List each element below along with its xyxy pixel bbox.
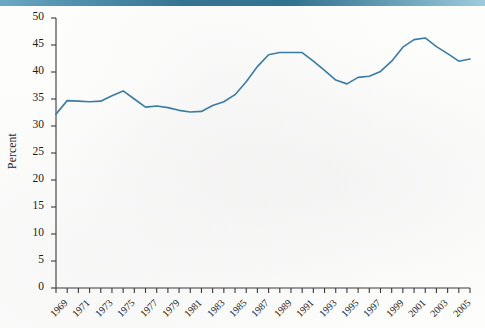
y-tick-label: 20 [24,172,44,184]
y-tick-label: 45 [24,37,44,49]
y-tick-label: 15 [24,199,44,211]
chart-svg [0,0,485,328]
y-tick-label: 30 [24,118,44,130]
y-tick-label: 5 [24,253,44,265]
y-axis-title: Percent [6,121,18,181]
y-tick-label: 35 [24,91,44,103]
y-tick-label: 40 [24,64,44,76]
data-series-line [56,38,470,114]
y-tick-label: 10 [24,226,44,238]
y-tick-label: 0 [24,280,44,292]
y-tick-label: 50 [24,10,44,22]
line-chart [0,0,485,328]
y-tick-label: 25 [24,145,44,157]
figure-container: Percent 05101520253035404550 19691971197… [0,0,485,328]
